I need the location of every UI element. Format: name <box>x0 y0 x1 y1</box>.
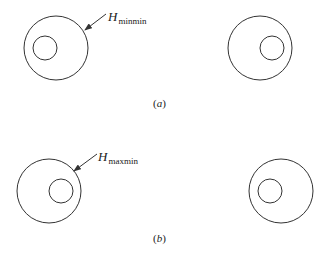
panel-b-arrow <box>74 154 97 171</box>
panel-a-left-inner-circle <box>33 36 57 60</box>
diagram-canvas: Hminmin (a) Hmaxmin (b) <box>0 0 332 256</box>
panel-a: Hminmin (a) <box>24 9 292 110</box>
panel-b-right-inner-circle <box>258 179 282 203</box>
panel-b-label: Hmaxmin <box>97 149 138 166</box>
panel-a-arrow <box>85 14 106 30</box>
panel-a-right-inner-circle <box>260 36 284 60</box>
panel-a-caption: (a) <box>153 97 166 110</box>
panel-b: Hmaxmin (b) <box>17 149 313 245</box>
panel-b-left-inner-circle <box>49 179 73 203</box>
panel-a-label: Hminmin <box>107 9 147 26</box>
panel-a-left-outer-circle <box>24 16 88 80</box>
panel-b-caption: (b) <box>153 232 166 245</box>
panel-b-right-outer-circle <box>249 159 313 223</box>
